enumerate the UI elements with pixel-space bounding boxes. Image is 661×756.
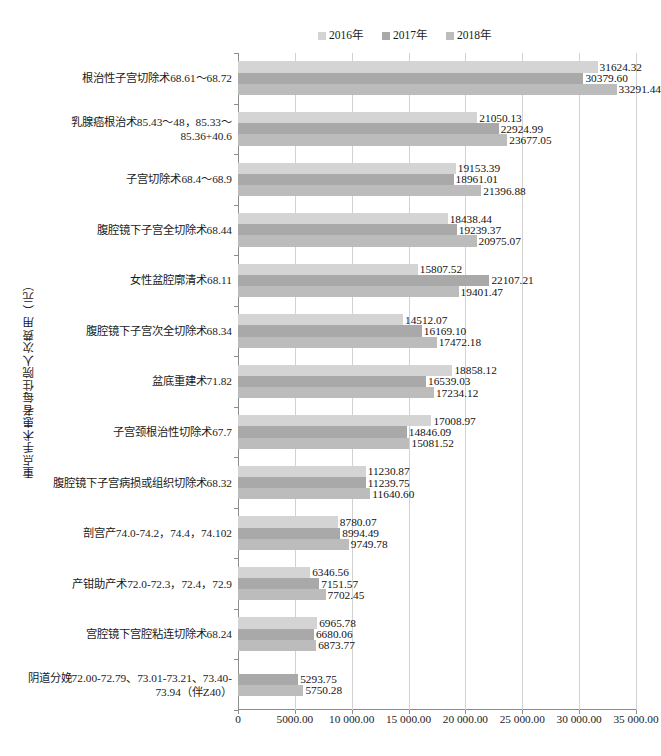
bar-2016年[interactable]: 8780.07: [238, 516, 338, 527]
bar-2016年[interactable]: 6965.78: [238, 617, 317, 628]
bar-2016年[interactable]: 14512.07: [238, 314, 403, 325]
bar-value-label: 31624.32: [600, 61, 642, 73]
x-axis-tick-label: 15 000.00: [386, 713, 431, 725]
bar-group: 阴道分娩72.00-72.79、73.01-73.21、73.40-73.94（…: [238, 659, 636, 710]
bar-group: 盆底重建术71.8218858.1216539.0317234.12: [238, 356, 636, 407]
bar-group: 腹腔镜下子宫全切除术68.4418438.4419239.3720975.07: [238, 205, 636, 256]
bar-value-label: 18858.12: [454, 364, 496, 376]
bar-value-label: 23677.05: [509, 134, 551, 146]
bar-value-label: 6965.78: [319, 617, 356, 629]
legend-swatch-icon: [446, 32, 454, 40]
bar-group: 子宫切除术68.4～68.919153.3918961.0121396.88: [238, 154, 636, 205]
bar-group: 腹腔镜下子宫次全切除术68.3414512.0716169.1017472.18: [238, 306, 636, 357]
bar-value-label: 16539.03: [428, 375, 470, 387]
bar-2018年[interactable]: 7702.45: [238, 589, 326, 600]
legend-label: 2016年: [329, 30, 363, 42]
bar-2016年[interactable]: 21050.13: [238, 112, 477, 123]
bar-value-label: 6873.77: [318, 639, 355, 651]
bar-2018年[interactable]: 5750.28: [238, 685, 303, 696]
legend-item-2016年[interactable]: 2016年: [318, 30, 363, 42]
bar-2017年[interactable]: 7151.57: [238, 578, 319, 589]
bar-2018年[interactable]: 21396.88: [238, 185, 481, 196]
bar-2018年[interactable]: 6873.77: [238, 640, 316, 651]
bar-2016年[interactable]: 19153.39: [238, 163, 456, 174]
y-axis-category-label: 盆底重建术71.82: [152, 374, 232, 389]
bar-2017年[interactable]: 5293.75: [238, 674, 298, 685]
bar-2016年[interactable]: 18438.44: [238, 213, 448, 224]
bar-value-label: 8994.49: [342, 527, 379, 539]
bar-2017年[interactable]: 8994.49: [238, 528, 340, 539]
bar-2017年[interactable]: 18961.01: [238, 174, 454, 185]
bar-2017年[interactable]: 30379.60: [238, 73, 583, 84]
bar-2017年[interactable]: 16169.10: [238, 325, 422, 336]
bar-2017年[interactable]: 6680.06: [238, 629, 314, 640]
bar-value-label: 11239.75: [368, 477, 410, 489]
bar-group: 乳腺癌根治术85.43～48，85.33～85.36+40.621050.132…: [238, 104, 636, 155]
y-axis-category-label: 根治性子宫切除术68.61～68.72: [82, 71, 232, 86]
bar-value-label: 17008.97: [433, 415, 475, 427]
y-axis-category-label: 产钳助产术72.0-72.3，72.4，72.9: [72, 576, 232, 591]
bar-value-label: 9749.78: [351, 538, 388, 550]
bar-value-label: 15081.52: [411, 437, 453, 449]
bar-2016年[interactable]: 31624.32: [238, 61, 598, 72]
bar-2017年[interactable]: 19239.37: [238, 224, 457, 235]
gridline: [636, 53, 637, 710]
bar-value-label: 22924.99: [501, 123, 543, 135]
bar-value-label: 19401.47: [461, 286, 503, 298]
bar-value-label: 21396.88: [483, 185, 525, 197]
bar-group: 根治性子宫切除术68.61～68.7231624.3230379.6033291…: [238, 53, 636, 104]
bar-2018年[interactable]: 20975.07: [238, 235, 477, 246]
legend-swatch-icon: [382, 32, 390, 40]
bar-2018年[interactable]: 15081.52: [238, 438, 409, 449]
bar-value-label: 7151.57: [321, 578, 358, 590]
x-axis-tick-label: 20 000.00: [443, 713, 488, 725]
bar-value-label: 17234.12: [436, 387, 478, 399]
bar-value-label: 14846.09: [409, 426, 451, 438]
bar-2018年[interactable]: 33291.44: [238, 84, 617, 95]
y-axis-category-label: 腹腔镜下子宫全切除术68.44: [97, 223, 232, 238]
bar-2016年[interactable]: 6346.56: [238, 567, 310, 578]
plot-area: 根治性子宫切除术68.61～68.7231624.3230379.6033291…: [238, 53, 636, 710]
bar-value-label: 7702.45: [328, 589, 365, 601]
bar-2017年[interactable]: 22924.99: [238, 123, 499, 134]
legend-item-2017年[interactable]: 2017年: [382, 30, 427, 42]
y-axis-category-label: 剖宫产74.0-74.2，74.4，74.102: [83, 526, 232, 541]
bar-2016年[interactable]: 18858.12: [238, 365, 452, 376]
bar-value-label: 16169.10: [424, 325, 466, 337]
bar-2018年[interactable]: 11640.60: [238, 488, 370, 499]
bar-2016年[interactable]: 11230.87: [238, 466, 366, 477]
bar-value-label: 33291.44: [619, 83, 661, 95]
bar-value-label: 6680.06: [316, 628, 353, 640]
y-axis-title: 重点手术患者每住院人次费用（元）: [21, 278, 37, 478]
y-axis-category-label: 乳腺癌根治术85.43～48，85.33～85.36+40.6: [22, 114, 232, 143]
bar-2018年[interactable]: 23677.05: [238, 134, 507, 145]
bar-2017年[interactable]: 11239.75: [238, 477, 366, 488]
y-axis-category-label: 子宫颈根治性切除术67.7: [113, 425, 232, 440]
x-axis-tick-label: 35 000.00: [613, 713, 658, 725]
bar-2016年[interactable]: 15807.52: [238, 264, 418, 275]
x-axis-tick-labels: 05000.0010 000.0015 000.0020 000.0025 00…: [238, 713, 636, 731]
bar-group: 子宫颈根治性切除术67.717008.9714846.0915081.52: [238, 407, 636, 458]
bar-2017年[interactable]: 16539.03: [238, 376, 426, 387]
bar-value-label: 14512.07: [405, 314, 447, 326]
legend-swatch-icon: [318, 32, 326, 40]
y-axis-category-label: 女性盆腔廓清术68.11: [130, 273, 232, 288]
bar-value-label: 11640.60: [372, 488, 414, 500]
bar-group: 剖宫产74.0-74.2，74.4，74.1028780.078994.4997…: [238, 508, 636, 559]
x-axis-tick-label: 30 000.00: [557, 713, 602, 725]
y-axis-category-label: 腹腔镜下子宫病损或组织切除术68.32: [53, 475, 232, 490]
bar-2018年[interactable]: 17234.12: [238, 387, 434, 398]
x-axis-tick-label: 10 000.00: [329, 713, 374, 725]
y-axis-category-label: 宫腔镜下宫腔粘连切除术68.24: [86, 627, 232, 642]
bar-2018年[interactable]: 19401.47: [238, 286, 459, 297]
bar-2018年[interactable]: 17472.18: [238, 337, 437, 348]
bar-2018年[interactable]: 9749.78: [238, 539, 349, 550]
bar-2017年[interactable]: 14846.09: [238, 426, 407, 437]
legend-item-2018年[interactable]: 2018年: [446, 30, 491, 42]
bar-value-label: 20975.07: [479, 235, 521, 247]
x-axis-tick-label: 0: [235, 713, 241, 725]
bar-value-label: 19153.39: [458, 162, 500, 174]
bar-2016年[interactable]: 17008.97: [238, 415, 431, 426]
bar-2017年[interactable]: 22107.21: [238, 275, 489, 286]
